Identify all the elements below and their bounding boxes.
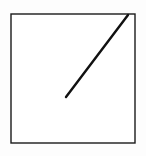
square-border xyxy=(11,14,135,143)
figure-canvas xyxy=(0,0,146,156)
figure-drawing xyxy=(0,0,146,156)
